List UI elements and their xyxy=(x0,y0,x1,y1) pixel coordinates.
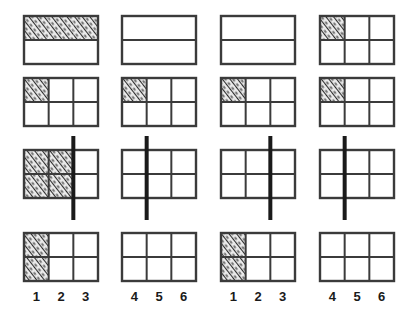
fraction-bar-figure: 123456123456 xyxy=(0,0,416,317)
labels-layer: 123456123456 xyxy=(33,289,386,304)
fraction-bar-panel xyxy=(221,78,295,126)
shaded-cell xyxy=(73,16,98,40)
fraction-bar-panel xyxy=(320,233,394,281)
shaded-cell xyxy=(122,78,147,102)
shaded-cell xyxy=(49,174,74,198)
column-label: 2 xyxy=(57,289,64,304)
figure-canvas: 123456123456 xyxy=(0,0,416,317)
shaded-cell xyxy=(49,150,74,174)
fraction-bar-panel xyxy=(320,16,394,64)
shaded-cell xyxy=(221,78,246,102)
fraction-bar-panel xyxy=(24,136,98,220)
shaded-cell xyxy=(24,150,49,174)
column-label: 4 xyxy=(131,289,139,304)
fraction-bar-panel xyxy=(221,233,295,281)
shaded-cell xyxy=(221,233,246,257)
shaded-cell xyxy=(49,16,74,40)
column-label: 1 xyxy=(33,289,40,304)
fraction-bar-panel xyxy=(122,78,196,126)
fraction-bar-panel xyxy=(24,233,98,281)
column-label: 4 xyxy=(329,289,337,304)
panels-layer xyxy=(24,16,394,281)
shaded-cell xyxy=(320,16,345,40)
column-label: 1 xyxy=(230,289,237,304)
fraction-bar-panel xyxy=(24,16,98,64)
column-label: 5 xyxy=(155,289,162,304)
fraction-bar-panel xyxy=(221,136,295,220)
column-label: 3 xyxy=(82,289,89,304)
fraction-bar-panel xyxy=(221,16,295,64)
column-label: 3 xyxy=(279,289,286,304)
fraction-bar-panel xyxy=(122,16,196,64)
column-label: 6 xyxy=(180,289,187,304)
shaded-cell xyxy=(24,257,49,281)
shaded-cell xyxy=(24,233,49,257)
shaded-cell xyxy=(320,78,345,102)
fraction-bar-panel xyxy=(24,78,98,126)
fraction-bar-panel xyxy=(320,136,394,220)
fraction-bar-panel xyxy=(122,136,196,220)
shaded-cell xyxy=(24,16,49,40)
column-label: 5 xyxy=(353,289,360,304)
column-label: 6 xyxy=(378,289,385,304)
shaded-cell xyxy=(221,257,246,281)
fraction-bar-panel xyxy=(320,78,394,126)
shaded-cell xyxy=(24,174,49,198)
shaded-cell xyxy=(24,78,49,102)
column-label: 2 xyxy=(254,289,261,304)
fraction-bar-panel xyxy=(122,233,196,281)
